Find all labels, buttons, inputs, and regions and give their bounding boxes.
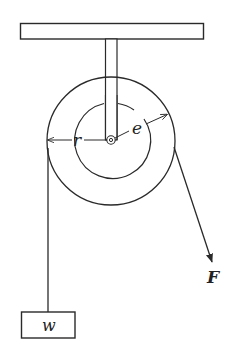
ceiling-beam [21,24,204,40]
weight-label: w [42,316,56,335]
radius-label: r [73,130,82,150]
axle-outer [107,136,115,144]
effective-radius-line-b [146,115,167,125]
force-label: F [206,267,221,287]
force-rope [174,147,212,262]
inner-hub-circle-upper [118,104,134,111]
effective-radius-label: e [132,118,142,138]
pulley-diagram: r e w F [0,0,239,361]
